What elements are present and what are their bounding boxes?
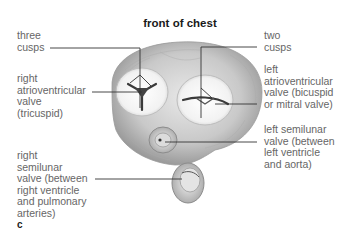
label-three-cusps: three cusps	[17, 30, 44, 53]
label-right-semilunar-valve: right semilunar valve (between right ven…	[17, 150, 88, 220]
label-two-cusps: two cusps	[264, 30, 291, 53]
label-left-semilunar-valve: left semilunar valve (between left ventr…	[264, 124, 335, 170]
label-left-atrioventricular-valve: left atrioventricular valve (bicuspid or…	[264, 64, 333, 110]
pulmonary-valve	[172, 163, 204, 203]
aortic-valve	[149, 127, 177, 153]
diagram-title: front of chest	[125, 17, 235, 29]
panel-letter: c	[17, 219, 23, 230]
label-right-atrioventricular-valve: right atrioventricular valve (tricuspid)	[17, 73, 86, 119]
mitral-valve	[177, 75, 233, 125]
